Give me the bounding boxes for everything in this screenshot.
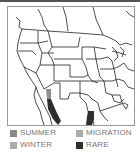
legend-label-rare: RARE — [86, 140, 109, 150]
map-outline-icon — [8, 7, 134, 125]
summer-swatch-icon — [10, 130, 17, 137]
map-legend: SUMMER MIGRATION WINTER RARE — [10, 128, 138, 152]
legend-item-summer: SUMMER — [10, 128, 56, 138]
rare-swatch-icon — [76, 142, 83, 149]
legend-item-rare: RARE — [76, 140, 109, 150]
legend-item-migration: MIGRATION — [76, 128, 132, 138]
rare-range-west — [47, 99, 61, 125]
winter-swatch-icon — [10, 142, 17, 149]
legend-item-winter: WINTER — [10, 140, 52, 150]
migration-range-west — [46, 89, 51, 99]
legend-label-migration: MIGRATION — [86, 128, 132, 138]
migration-swatch-icon — [76, 130, 83, 137]
top-border — [0, 0, 140, 2]
legend-label-summer: SUMMER — [20, 128, 56, 138]
range-map — [7, 6, 135, 126]
rare-range-east — [86, 111, 94, 125]
legend-label-winter: WINTER — [20, 140, 52, 150]
